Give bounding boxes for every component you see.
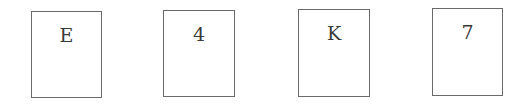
card-label: 7 xyxy=(433,23,502,42)
card-k: K xyxy=(298,9,370,97)
card-label: E xyxy=(32,26,101,45)
card-label: K xyxy=(299,24,369,43)
card-e: E xyxy=(31,11,102,98)
card-4: 4 xyxy=(163,10,235,97)
card-label: 4 xyxy=(164,25,234,44)
card-7: 7 xyxy=(432,8,503,96)
